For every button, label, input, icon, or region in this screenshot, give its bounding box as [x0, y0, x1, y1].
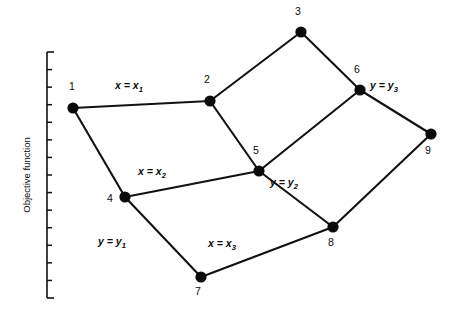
graph-node-3[interactable]: [295, 26, 306, 37]
graph-node-6[interactable]: [354, 84, 365, 95]
graph-node-labels: 123456789: [69, 5, 431, 297]
node-label-2: 2: [204, 73, 210, 85]
graph-edge-2-5: [210, 101, 259, 171]
node-label-8: 8: [328, 236, 334, 248]
graph-edge-4-7: [125, 197, 201, 277]
node-label-3: 3: [295, 5, 301, 17]
graph-edges: [73, 32, 431, 277]
edge-label-y1: y = y1: [97, 235, 126, 250]
edge-label-x3: x = x3: [207, 237, 237, 252]
graph-node-8[interactable]: [327, 221, 338, 232]
node-label-1: 1: [69, 80, 75, 92]
graph-edge-8-9: [333, 134, 431, 227]
node-label-6: 6: [354, 63, 360, 75]
graph-diagram: Objective function 123456789 x = x1x = x…: [0, 0, 458, 318]
node-label-5: 5: [253, 144, 259, 156]
graph-edge-5-6: [259, 90, 360, 171]
graph-edge-6-9: [360, 90, 431, 134]
graph-edge-1-2: [73, 101, 210, 108]
graph-edge-1-4: [73, 108, 125, 197]
objective-function-axis: Objective function: [21, 52, 54, 298]
edge-label-x2: x = x2: [137, 165, 167, 180]
graph-node-4[interactable]: [119, 191, 130, 202]
graph-edge-7-8: [201, 227, 333, 277]
edge-label-x1: x = x1: [114, 79, 143, 94]
graph-node-2[interactable]: [204, 95, 215, 106]
figure-canvas: Objective function 123456789 x = x1x = x…: [0, 0, 458, 318]
graph-node-7[interactable]: [195, 271, 206, 282]
graph-edge-2-3: [210, 32, 301, 101]
node-label-4: 4: [107, 192, 113, 204]
graph-edge-3-6: [301, 32, 360, 90]
graph-node-9[interactable]: [425, 128, 436, 139]
node-label-9: 9: [425, 144, 431, 156]
graph-node-5[interactable]: [253, 165, 264, 176]
graph-node-1[interactable]: [67, 102, 78, 113]
node-label-7: 7: [195, 285, 201, 297]
axis-caption-label: Objective function: [21, 137, 32, 213]
edge-label-y3: y = y3: [369, 79, 399, 94]
